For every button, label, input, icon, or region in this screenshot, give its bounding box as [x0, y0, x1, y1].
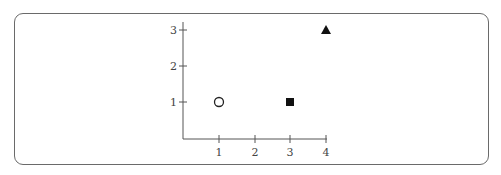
y-tick-label-1: 1 — [170, 96, 177, 109]
x-tick-label-4: 4 — [323, 146, 330, 159]
filled-triangle-marker — [321, 25, 331, 34]
x-tick-label-1: 1 — [216, 146, 223, 159]
scatter-plot: 3 2 1 1 2 3 4 — [0, 0, 501, 175]
y-tick-label-2: 2 — [170, 60, 177, 73]
x-tick-label-3: 3 — [287, 146, 294, 159]
y-tick-label-3: 3 — [170, 24, 177, 37]
filled-square-marker — [286, 98, 294, 106]
open-circle-marker — [215, 98, 224, 107]
x-tick-label-2: 2 — [252, 146, 259, 159]
